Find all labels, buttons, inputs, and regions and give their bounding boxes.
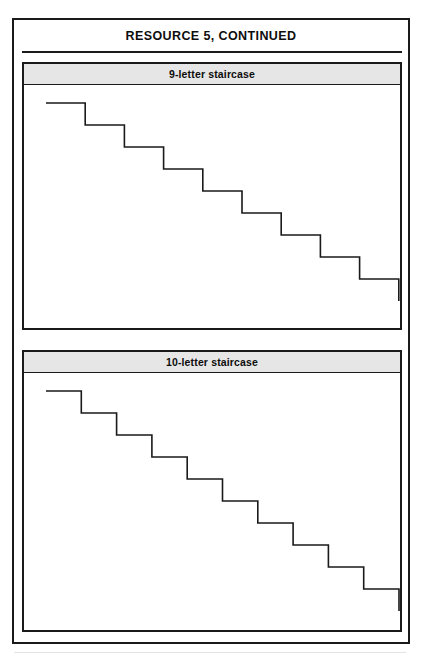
panel-title-10: 10-letter staircase [166, 356, 258, 368]
header-divider [22, 51, 402, 53]
resource-page-frame: RESOURCE 5, CONTINUED 9-letter staircase… [12, 18, 410, 644]
staircase-path-9 [46, 103, 399, 301]
staircase-canvas-9 [24, 85, 400, 328]
panel-title-bar-10: 10-letter staircase [24, 352, 400, 373]
staircase-canvas-10 [24, 373, 400, 630]
page-bottom-edge [14, 652, 406, 653]
page-title: RESOURCE 5, CONTINUED [126, 29, 297, 43]
staircase-panel-10: 10-letter staircase [22, 350, 402, 632]
staircase-chart-9 [24, 85, 400, 328]
panel-title-9: 9-letter staircase [169, 68, 255, 80]
staircase-chart-10 [24, 373, 400, 630]
staircase-path-10 [46, 391, 399, 611]
panel-title-bar-9: 9-letter staircase [24, 64, 400, 85]
staircase-panel-9: 9-letter staircase [22, 62, 402, 330]
resource-header: RESOURCE 5, CONTINUED [14, 20, 408, 51]
